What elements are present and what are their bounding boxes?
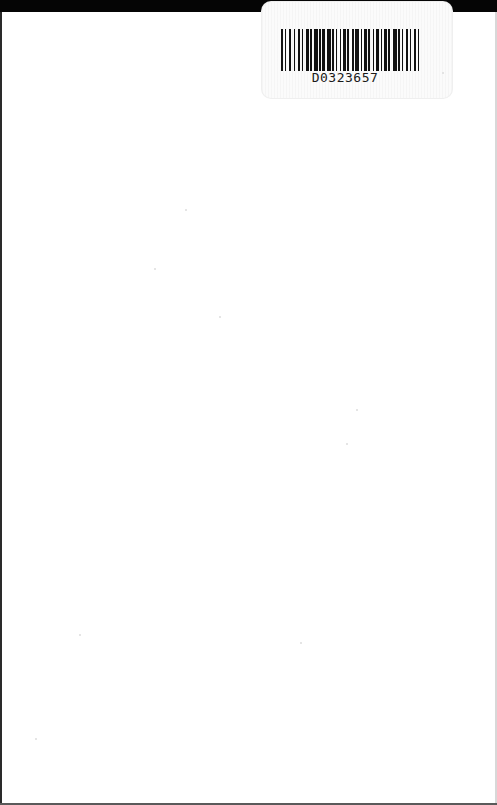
scan-speck <box>35 738 37 740</box>
scan-speck <box>185 209 187 211</box>
scan-speck <box>300 642 302 644</box>
scan-speck <box>346 443 348 445</box>
barcode-number: D0323657 <box>262 70 428 86</box>
scan-speck <box>442 72 444 74</box>
barcode-sticker: D0323657 <box>262 2 452 98</box>
scan-speck <box>154 268 156 270</box>
scanned-page: D0323657 <box>0 0 497 805</box>
barcode-gap <box>419 29 421 71</box>
scan-speck <box>356 409 358 411</box>
scan-left-edge <box>0 12 2 805</box>
barcode-bars <box>281 29 421 71</box>
scan-speck <box>79 634 81 636</box>
scan-speck <box>219 316 221 318</box>
